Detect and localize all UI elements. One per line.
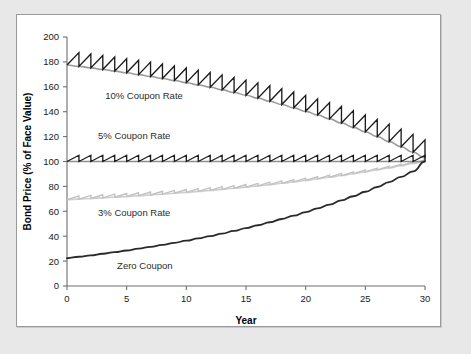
- y-tick-label: 60: [48, 206, 59, 217]
- x-tick-label: 20: [300, 293, 311, 304]
- y-tick-label: 140: [43, 106, 59, 117]
- y-tick-label: 100: [43, 156, 59, 167]
- bond-price-chart: 0204060801001201401601802000510152025301…: [17, 15, 440, 326]
- y-tick-label: 160: [43, 81, 59, 92]
- series-annotation: 10% Coupon Rate: [105, 90, 183, 101]
- series-annotation: Zero Coupon: [117, 260, 172, 271]
- series-10-coupon-rate-envelope: [67, 65, 425, 158]
- y-axis-title: Bond Price (% of Face Value): [22, 93, 33, 231]
- series-3-coupon-rate-line: [67, 160, 425, 200]
- series-10-coupon-rate: [67, 53, 425, 158]
- x-tick-label: 15: [241, 293, 252, 304]
- chart-panel: 0204060801001201401601802000510152025301…: [16, 14, 441, 327]
- plot-area: 0204060801001201401601802000510152025301…: [17, 15, 440, 326]
- x-tick-label: 5: [124, 293, 129, 304]
- series-3-coupon-rate-envelope: [67, 161, 425, 200]
- y-tick-label: 180: [43, 56, 59, 67]
- series-annotation: 5% Coupon Rate: [98, 130, 170, 141]
- x-tick-label: 25: [360, 293, 371, 304]
- series-10-coupon-rate-line: [67, 53, 425, 158]
- y-tick-label: 120: [43, 131, 59, 142]
- y-tick-label: 40: [48, 231, 59, 242]
- y-tick-label: 0: [54, 280, 59, 291]
- x-tick-label: 0: [64, 293, 69, 304]
- series-5-coupon-rate: [67, 155, 425, 161]
- series-3-coupon-rate: [67, 160, 425, 200]
- series-annotation: 3% Coupon Rate: [98, 207, 170, 218]
- x-tick-label: 30: [420, 293, 431, 304]
- y-tick-label: 80: [48, 181, 59, 192]
- series-5-coupon-rate-line: [67, 155, 425, 161]
- y-tick-label: 20: [48, 256, 59, 267]
- x-axis-title: Year: [235, 315, 256, 326]
- y-tick-label: 200: [43, 31, 59, 42]
- x-tick-label: 10: [181, 293, 192, 304]
